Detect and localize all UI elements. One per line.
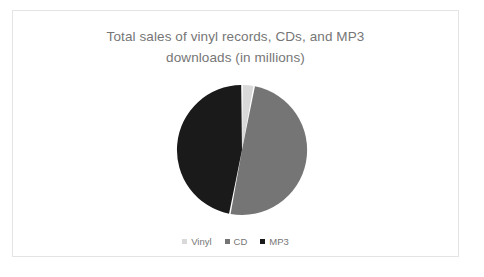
legend-item-cd[interactable]: CD [225,236,248,247]
pie-slice-cd[interactable] [231,86,308,215]
square-swatch-icon-vinyl [182,239,187,244]
legend-item-vinyl[interactable]: Vinyl [182,236,211,247]
pie-slice-mp3[interactable] [177,85,242,214]
chart-title: Total sales of vinyl records, CDs, and M… [13,26,458,68]
legend-item-label: CD [234,236,248,247]
square-swatch-icon-mp3 [260,239,265,244]
legend-item-label: Vinyl [191,236,211,247]
legend-item-label: MP3 [269,236,289,247]
pie-chart-svg [176,84,308,216]
legend-item-mp3[interactable]: MP3 [260,236,289,247]
pie-chart-plot-area [176,84,308,216]
chart-legend: Vinyl CD MP3 [13,236,458,247]
pie-slice-group [177,85,307,215]
square-swatch-icon-cd [225,239,230,244]
chart-card: Total sales of vinyl records, CDs, and M… [12,10,459,257]
